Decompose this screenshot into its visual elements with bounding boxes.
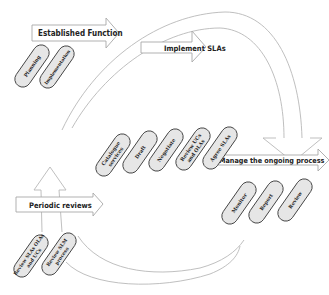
stage-label-periodic: Periodic reviews xyxy=(29,201,92,210)
stage-label-manage: Manage the ongoing process xyxy=(219,156,325,165)
stage-arrow-manage: Manage the ongoing process xyxy=(216,149,329,171)
slm-process-diagram: Established Function Implement SLAs Mana… xyxy=(0,0,329,295)
stage-arrow-implement: Implement SLAs xyxy=(141,31,226,62)
stage-label-established: Established Function xyxy=(38,29,123,38)
stage-label-implement: Implement SLAs xyxy=(164,44,226,53)
stage-arrow-established: Established Function xyxy=(32,18,123,48)
bottom-curved-arrow xyxy=(66,236,244,284)
